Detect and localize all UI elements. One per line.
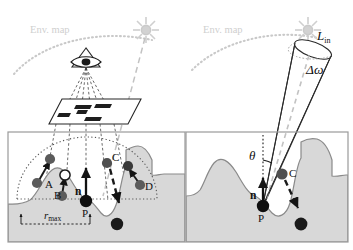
terrain-left — [8, 146, 185, 242]
label-c-left: C — [112, 151, 119, 163]
camera-eye-icon — [71, 48, 101, 67]
image-plane-icon — [49, 99, 141, 124]
figure-canvas: Env. map — [0, 0, 353, 250]
env-map-label-left: Env. map — [30, 24, 70, 35]
point-p-right — [257, 200, 269, 212]
label-p-right: P — [258, 212, 264, 224]
sun-icon — [133, 17, 159, 43]
label-d: D — [145, 180, 153, 192]
label-theta: θ — [249, 148, 256, 163]
label-radiance: Lin — [316, 28, 330, 45]
label-p-left: P — [82, 207, 88, 219]
label-c-right: C — [289, 167, 296, 179]
left-panel: Env. map — [8, 17, 185, 242]
theta-arc — [263, 160, 272, 163]
env-map-label-right: Env. map — [203, 24, 243, 35]
label-n-left: n — [75, 185, 82, 197]
label-n-right: n — [250, 189, 257, 201]
point-p-left — [80, 195, 92, 207]
right-panel: Env. map Lin Δω — [186, 17, 348, 242]
label-a: A — [45, 178, 53, 190]
label-b: B — [54, 189, 61, 201]
label-solid-angle: Δω — [305, 62, 323, 77]
